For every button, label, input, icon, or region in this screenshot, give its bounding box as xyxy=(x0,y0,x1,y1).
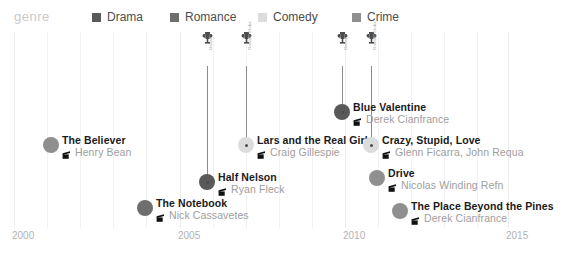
legend-swatch-icon xyxy=(170,13,179,22)
axis-tick-label: 2015 xyxy=(506,230,528,241)
film-title: Crazy, Stupid, Love xyxy=(382,134,524,146)
gridline xyxy=(378,32,379,228)
gridline xyxy=(146,32,147,228)
film-label-group: The Place Beyond the PinesDerek Cianfran… xyxy=(411,200,554,224)
legend-item-label: Romance xyxy=(185,10,236,24)
gridline xyxy=(477,32,478,228)
film-director: Nick Cassavetes xyxy=(169,209,249,221)
clapperboard-icon xyxy=(156,211,165,219)
film-label-group: The NotebookNick Cassavetes xyxy=(156,197,249,221)
film-director: Nicolas Winding Refn xyxy=(401,179,503,191)
film-genre-dot[interactable] xyxy=(199,174,215,190)
clapperboard-icon xyxy=(62,148,71,156)
legend-item-romance[interactable]: Romance xyxy=(170,10,236,24)
film-award-core-dot xyxy=(245,144,248,147)
clapperboard-icon xyxy=(218,185,227,193)
film-genre-dot[interactable] xyxy=(137,200,153,216)
award-connector-line xyxy=(246,66,247,145)
film-label-group: Half NelsonRyan Fleck xyxy=(218,171,285,195)
film-title: Lars and the Real Girl xyxy=(257,134,368,146)
gridline xyxy=(508,32,509,228)
award-label: Oscar xyxy=(208,38,213,50)
legend-item-comedy[interactable]: Comedy xyxy=(258,10,318,24)
clapperboard-icon xyxy=(353,115,362,123)
axis-tick-label: 2010 xyxy=(343,230,365,241)
film-genre-dot[interactable] xyxy=(369,170,385,186)
film-director: Craig Gillespie xyxy=(270,146,340,158)
axis-tick-label: 2005 xyxy=(178,230,200,241)
film-label-group: Crazy, Stupid, LoveGlenn Ficarra, John R… xyxy=(382,134,524,158)
gridline xyxy=(113,32,114,228)
timeline-chart: genre DramaRomanceComedyCrime OscarGolde… xyxy=(0,0,563,258)
gridline xyxy=(312,32,313,228)
legend-swatch-icon xyxy=(258,13,267,22)
film-director: Derek Cianfrance xyxy=(366,113,449,125)
gridline xyxy=(279,32,280,228)
clapperboard-icon xyxy=(388,181,397,189)
award-connector-line xyxy=(207,66,208,182)
film-title: Blue Valentine xyxy=(353,101,449,113)
film-director-row: Henry Bean xyxy=(62,146,131,158)
film-director: Glenn Ficarra, John Requa xyxy=(395,146,524,158)
legend: genre DramaRomanceComedyCrime xyxy=(0,0,563,30)
gridline xyxy=(444,32,445,228)
film-label-group: Blue ValentineDerek Cianfrance xyxy=(353,101,449,125)
film-award-core-dot xyxy=(341,111,344,114)
award-label: Golden Globe xyxy=(372,21,377,50)
film-label-group: Lars and the Real GirlCraig Gillespie xyxy=(257,134,368,158)
legend-swatch-icon xyxy=(352,13,361,22)
film-genre-dot[interactable] xyxy=(363,137,379,153)
film-title: Half Nelson xyxy=(218,171,285,183)
film-director-row: Nick Cassavetes xyxy=(156,209,249,221)
film-title: Drive xyxy=(388,167,503,179)
gridline xyxy=(411,32,412,228)
film-director-row: Derek Cianfrance xyxy=(411,212,554,224)
film-title: The Notebook xyxy=(156,197,249,209)
clapperboard-icon xyxy=(411,214,420,222)
gridline xyxy=(80,32,81,228)
film-genre-dot[interactable] xyxy=(238,137,254,153)
gridline xyxy=(14,32,15,228)
award-label: Golden Globe xyxy=(247,21,252,50)
film-title: The Place Beyond the Pines xyxy=(411,200,554,212)
film-label-group: The BelieverHenry Bean xyxy=(62,134,131,158)
legend-swatch-icon xyxy=(92,13,101,22)
legend-item-label: Comedy xyxy=(273,10,318,24)
film-director-row: Glenn Ficarra, John Requa xyxy=(382,146,524,158)
film-title: The Believer xyxy=(62,134,131,146)
film-director: Ryan Fleck xyxy=(231,183,285,195)
legend-item-label: Drama xyxy=(107,10,143,24)
film-director-row: Craig Gillespie xyxy=(257,146,368,158)
film-director-row: Nicolas Winding Refn xyxy=(388,179,503,191)
film-award-core-dot xyxy=(206,181,209,184)
film-genre-dot[interactable] xyxy=(392,203,408,219)
award-label: Oscar xyxy=(343,38,348,50)
film-genre-dot[interactable] xyxy=(334,104,350,120)
gridline xyxy=(47,32,48,228)
legend-title: genre xyxy=(14,9,50,24)
legend-item-drama[interactable]: Drama xyxy=(92,10,143,24)
film-director-row: Ryan Fleck xyxy=(218,183,285,195)
x-axis: 2000200520102015 xyxy=(0,228,563,248)
film-award-core-dot xyxy=(370,144,373,147)
film-director: Derek Cianfrance xyxy=(424,212,507,224)
film-genre-dot[interactable] xyxy=(43,137,59,153)
film-director-row: Derek Cianfrance xyxy=(353,113,449,125)
gridline xyxy=(345,32,346,228)
film-director: Henry Bean xyxy=(75,146,131,158)
axis-tick-label: 2000 xyxy=(12,230,34,241)
clapperboard-icon xyxy=(382,148,391,156)
clapperboard-icon xyxy=(257,148,266,156)
film-label-group: DriveNicolas Winding Refn xyxy=(388,167,503,191)
